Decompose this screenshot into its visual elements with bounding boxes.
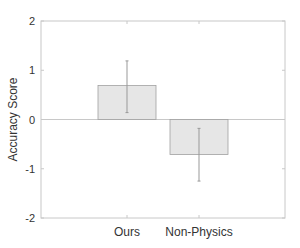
y-tick-label: 0 [29, 114, 35, 126]
y-tick-label: 1 [29, 64, 35, 76]
x-tick-label: Non-Physics [165, 225, 232, 239]
y-tick-label: 2 [29, 15, 35, 27]
x-tick-label: Ours [114, 225, 140, 239]
y-tick-label: -2 [25, 212, 35, 224]
bar-chart: -2-1012OursNon-PhysicsAccuracy Score [0, 0, 300, 248]
y-tick-label: -1 [25, 163, 35, 175]
y-axis-label: Accuracy Score [6, 77, 20, 161]
